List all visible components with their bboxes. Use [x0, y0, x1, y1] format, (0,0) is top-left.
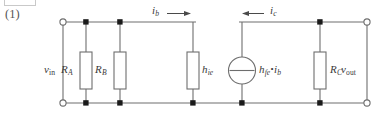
label-current-source: hfe•ib: [259, 64, 281, 76]
arrow-ic-head: [242, 11, 249, 16]
node-dot-rb-bot: [117, 100, 122, 105]
node-dot-rc-top: [317, 19, 322, 24]
node-dot-src-bot: [239, 100, 244, 105]
label-i-c: ic: [270, 5, 277, 17]
label-rc-base: R: [330, 63, 337, 75]
terminal-out-top: [364, 19, 370, 25]
label-i-c-sub: c: [273, 9, 277, 18]
terminal-in-bottom: [60, 100, 66, 106]
arrow-ib-head: [184, 11, 191, 16]
node-dot-ra-bot: [83, 100, 88, 105]
label-source-b: b: [277, 68, 281, 77]
current-source-symbol: [229, 57, 256, 84]
node-dot-rb-top: [117, 19, 122, 24]
figure-canvas: (1): [0, 0, 390, 128]
label-v-out: vout: [341, 64, 356, 76]
label-v-in: vin: [44, 64, 55, 76]
node-dot-hie-bot: [190, 100, 195, 105]
resistor-rc-body: [314, 52, 326, 89]
label-rb: RB: [95, 64, 107, 76]
label-hie-sub: ie: [208, 68, 214, 77]
label-hie-base: h: [202, 63, 208, 75]
label-rb-sub: B: [102, 68, 107, 77]
label-v-in-sub: in: [49, 68, 55, 77]
label-ra-sub: A: [68, 68, 73, 77]
label-rb-base: R: [95, 63, 102, 75]
label-ra: RA: [61, 64, 73, 76]
label-i-b-sub: b: [155, 9, 159, 18]
label-i-b: ib: [152, 5, 159, 17]
label-source-h: h: [259, 63, 265, 75]
label-v-out-sub: out: [346, 68, 356, 77]
label-rc-sub: C: [337, 68, 342, 77]
resistor-ra-body: [80, 52, 92, 89]
node-dot-rc-bot: [317, 100, 322, 105]
node-dot-ra-top: [83, 19, 88, 24]
label-hie: hie: [202, 64, 213, 76]
resistor-hie-body: [187, 52, 199, 89]
label-rc: RC: [330, 64, 342, 76]
current-arrow-group: [167, 11, 264, 16]
terminal-out-bottom: [364, 100, 370, 106]
terminal-in-top: [60, 19, 66, 25]
resistor-rb-body: [114, 52, 126, 89]
label-ra-base: R: [61, 63, 68, 75]
